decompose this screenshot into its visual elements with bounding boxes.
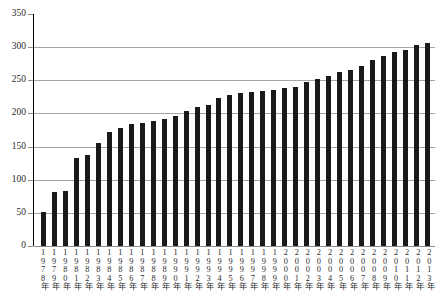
bar-slot bbox=[203, 14, 214, 246]
bar[interactable] bbox=[348, 70, 353, 246]
x-axis-tick-label: 2013年 bbox=[424, 248, 432, 290]
bar-slot bbox=[170, 14, 181, 246]
bar[interactable] bbox=[392, 52, 397, 246]
x-axis-label-slot: 1983年 bbox=[92, 248, 103, 297]
x-axis-tick-label: 1998年 bbox=[259, 248, 267, 290]
bar[interactable] bbox=[282, 88, 287, 246]
bar[interactable] bbox=[162, 119, 167, 246]
bar-slot bbox=[312, 14, 323, 246]
x-axis-tick-label: 2004年 bbox=[325, 248, 333, 290]
x-axis-label-slot: 2010年 bbox=[390, 248, 401, 297]
x-axis-label-slot: 1998年 bbox=[258, 248, 269, 297]
bar-slot bbox=[93, 14, 104, 246]
bar-slot bbox=[367, 14, 378, 246]
x-axis-tick-label: 1990年 bbox=[171, 248, 179, 290]
x-axis-tick-label: 1987年 bbox=[138, 248, 146, 290]
bar-slot bbox=[137, 14, 148, 246]
x-axis-label-slot: 1984年 bbox=[103, 248, 114, 297]
bar[interactable] bbox=[381, 56, 386, 246]
x-axis-tick-label: 2007年 bbox=[358, 248, 366, 290]
x-axis-tick-label: 2005年 bbox=[336, 248, 344, 290]
x-axis-tick-label: 1988年 bbox=[149, 248, 157, 290]
bar[interactable] bbox=[206, 105, 211, 246]
bar[interactable] bbox=[326, 76, 331, 246]
bar-series bbox=[35, 14, 435, 246]
x-axis-tick-label: 1982年 bbox=[82, 248, 90, 290]
bar[interactable] bbox=[52, 192, 57, 246]
bar[interactable] bbox=[293, 87, 298, 246]
x-axis-label-slot: 1988年 bbox=[147, 248, 158, 297]
bar[interactable] bbox=[271, 90, 276, 246]
bar[interactable] bbox=[425, 43, 430, 246]
bar[interactable] bbox=[238, 93, 243, 246]
x-axis-label-slot: 2012年 bbox=[412, 248, 423, 297]
y-axis-tick-label: 100 bbox=[12, 175, 26, 185]
y-axis-tick-label: 250 bbox=[12, 76, 26, 86]
bar-slot bbox=[389, 14, 400, 246]
bar-slot bbox=[334, 14, 345, 246]
bar-slot bbox=[159, 14, 170, 246]
y-axis-tick-label: 300 bbox=[12, 42, 26, 52]
bar[interactable] bbox=[359, 66, 364, 246]
bar-slot bbox=[345, 14, 356, 246]
bar[interactable] bbox=[227, 95, 232, 246]
x-axis-tick-label: 1983年 bbox=[94, 248, 102, 290]
bar[interactable] bbox=[403, 50, 408, 246]
x-axis-tick-label: 2000年 bbox=[281, 248, 289, 290]
x-axis-tick-label: 2003年 bbox=[314, 248, 322, 290]
plot-area bbox=[33, 14, 435, 246]
x-axis-label-slot: 1979年 bbox=[48, 248, 59, 297]
x-axis-tick-label: 1984年 bbox=[105, 248, 113, 290]
x-axis-tick-label: 2012年 bbox=[413, 248, 421, 290]
x-axis-tick-label: 1997年 bbox=[248, 248, 256, 290]
bar[interactable] bbox=[315, 79, 320, 246]
bar[interactable] bbox=[304, 82, 309, 246]
x-axis-label-slot: 1985年 bbox=[114, 248, 125, 297]
bar[interactable] bbox=[96, 143, 101, 246]
x-axis-tick-label: 2001年 bbox=[292, 248, 300, 290]
x-axis-label-slot: 2004年 bbox=[324, 248, 335, 297]
x-axis-label-slot: 2011年 bbox=[401, 248, 412, 297]
bar-slot bbox=[104, 14, 115, 246]
bar[interactable] bbox=[184, 111, 189, 246]
bar[interactable] bbox=[414, 45, 419, 246]
y-axis-tick-label: 0 bbox=[21, 241, 26, 251]
x-axis: 1978年1979年1980年1981年1982年1983年1984年1985年… bbox=[34, 248, 436, 297]
bar[interactable] bbox=[337, 72, 342, 246]
bar[interactable] bbox=[41, 212, 46, 246]
bar[interactable] bbox=[195, 107, 200, 246]
x-axis-label-slot: 2013年 bbox=[423, 248, 434, 297]
bar-slot bbox=[71, 14, 82, 246]
bar[interactable] bbox=[370, 60, 375, 246]
x-axis-label-slot: 1993年 bbox=[202, 248, 213, 297]
bar[interactable] bbox=[216, 98, 221, 246]
bar[interactable] bbox=[74, 158, 79, 246]
bar[interactable] bbox=[129, 124, 134, 246]
x-axis-label-slot: 2000年 bbox=[280, 248, 291, 297]
bar[interactable] bbox=[140, 123, 145, 246]
bar[interactable] bbox=[173, 116, 178, 246]
bar[interactable] bbox=[107, 132, 112, 246]
bar[interactable] bbox=[85, 155, 90, 246]
x-axis-tick-label: 1985年 bbox=[116, 248, 124, 290]
x-axis-label-slot: 1982年 bbox=[81, 248, 92, 297]
bar-slot bbox=[148, 14, 159, 246]
bar-slot bbox=[49, 14, 60, 246]
bar[interactable] bbox=[118, 128, 123, 246]
x-axis-label-slot: 1996年 bbox=[236, 248, 247, 297]
x-axis-tick-label: 1986年 bbox=[127, 248, 135, 290]
bar-slot bbox=[246, 14, 257, 246]
bar[interactable] bbox=[151, 121, 156, 246]
bar-slot bbox=[224, 14, 235, 246]
bar[interactable] bbox=[260, 91, 265, 246]
bar-slot bbox=[301, 14, 312, 246]
bar[interactable] bbox=[249, 92, 254, 246]
bar-slot bbox=[356, 14, 367, 246]
bar[interactable] bbox=[63, 191, 68, 246]
x-axis-tick-label: 1978年 bbox=[38, 248, 46, 290]
gridline bbox=[34, 246, 435, 247]
y-axis-tick-label: 200 bbox=[12, 109, 26, 119]
y-axis: 050100150200250300350 bbox=[0, 0, 33, 246]
x-axis-label-slot: 1989年 bbox=[158, 248, 169, 297]
x-axis-label-slot: 1978年 bbox=[37, 248, 48, 297]
